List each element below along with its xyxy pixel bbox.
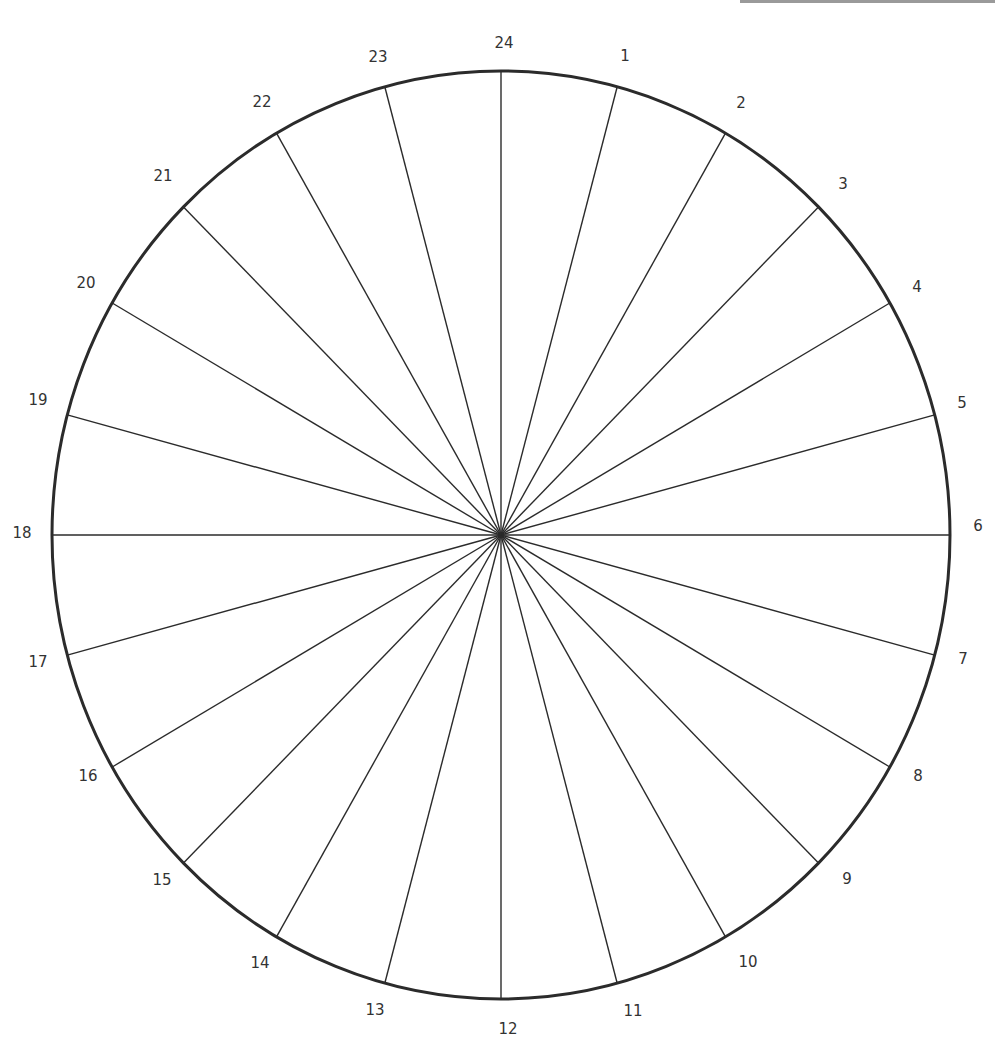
- segment-label: 16: [78, 767, 97, 785]
- spoke-line: [501, 535, 617, 983]
- segment-label: 22: [252, 93, 271, 111]
- spokes: [52, 71, 950, 999]
- segment-label: 24: [494, 34, 513, 52]
- spoke-line: [501, 87, 617, 535]
- radial-wheel: [0, 0, 995, 1064]
- spoke-line: [112, 535, 501, 767]
- segment-label: 23: [368, 48, 387, 66]
- segment-label: 7: [958, 650, 968, 668]
- spoke-line: [501, 535, 819, 863]
- spoke-line: [184, 535, 502, 863]
- segment-label: 15: [152, 871, 171, 889]
- segment-label: 18: [12, 524, 31, 542]
- spoke-line: [501, 133, 726, 535]
- spoke-line: [385, 87, 501, 535]
- spoke-line: [501, 535, 890, 767]
- segment-label: 13: [365, 1001, 384, 1019]
- spoke-line: [501, 535, 935, 655]
- spoke-line: [67, 415, 501, 535]
- spoke-line: [67, 535, 501, 655]
- segment-label: 10: [738, 953, 757, 971]
- spoke-line: [501, 535, 726, 937]
- segment-label: 17: [28, 653, 47, 671]
- segment-label: 14: [250, 954, 269, 972]
- segment-label: 21: [153, 167, 172, 185]
- spoke-line: [501, 207, 819, 535]
- segment-label: 3: [838, 175, 848, 193]
- spoke-line: [277, 535, 502, 937]
- spoke-line: [385, 535, 501, 983]
- spoke-line: [112, 303, 501, 535]
- segment-label: 4: [912, 278, 922, 296]
- segment-label: 11: [623, 1002, 642, 1020]
- spoke-line: [501, 303, 890, 535]
- segment-label: 6: [973, 517, 983, 535]
- spoke-line: [501, 415, 935, 535]
- segment-label: 9: [842, 870, 852, 888]
- segment-label: 19: [28, 391, 47, 409]
- segment-label: 8: [913, 767, 923, 785]
- segment-label: 5: [957, 394, 967, 412]
- spoke-line: [277, 133, 502, 535]
- segment-label: 12: [498, 1020, 517, 1038]
- segment-label: 2: [736, 94, 746, 112]
- segment-label: 20: [76, 274, 95, 292]
- spoke-line: [184, 207, 502, 535]
- segment-label: 1: [620, 47, 630, 65]
